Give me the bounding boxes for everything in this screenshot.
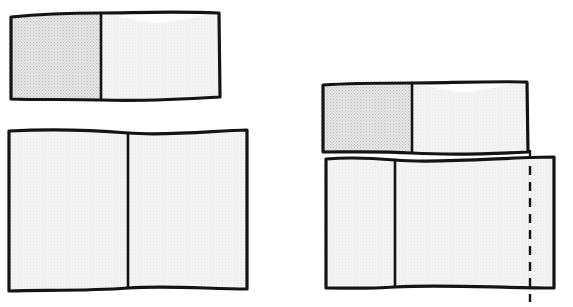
bottom-left-card-right-panel — [128, 130, 247, 289]
top-left-card-right-panel — [101, 13, 220, 100]
top-right-card-right-panel — [412, 82, 528, 154]
figure-root — [0, 0, 573, 307]
bottom-right-plain-card — [326, 157, 554, 288]
top-right-shaded-card — [323, 82, 528, 154]
bottom-right-card-left-panel — [326, 158, 395, 288]
top-left-card-left-panel — [11, 13, 101, 100]
top-left-shaded-card — [11, 12, 220, 100]
folded-card-figure — [0, 0, 573, 307]
bottom-left-card-left-panel — [9, 130, 128, 291]
bottom-left-plain-card — [9, 130, 247, 291]
top-right-card-left-panel — [323, 83, 412, 153]
